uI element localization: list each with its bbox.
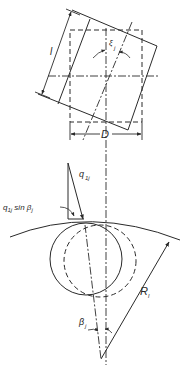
roller-skew-diagram: l ξ j D q 1j q1j sin βj β (0, 0, 184, 367)
contact-angle-subscript: j (84, 323, 87, 329)
skew-angle-arcs (93, 50, 130, 58)
length-label: l (50, 46, 53, 57)
radius-label: R (140, 285, 148, 297)
contact-cone-lines (85, 225, 101, 359)
contact-angle-arcs (88, 329, 112, 333)
length-dimension (35, 9, 80, 98)
contact-angle-label: β (78, 317, 84, 327)
force-subscript: 1j (85, 175, 90, 181)
radius-subscript: l (148, 293, 150, 299)
roller-section-dashed (64, 225, 136, 297)
roller-section-solid (50, 223, 122, 295)
force-component-label: q1j sin βj (3, 203, 33, 213)
skew-angle-label: ξ (109, 38, 113, 47)
skew-angle-subscript: j (113, 45, 116, 51)
diameter-label: D (101, 128, 109, 140)
skewed-roller-outline (38, 10, 157, 130)
force-label: q (79, 169, 84, 179)
radius-line (101, 242, 169, 359)
force-component-leader (60, 207, 74, 216)
center-lines (48, 22, 160, 365)
